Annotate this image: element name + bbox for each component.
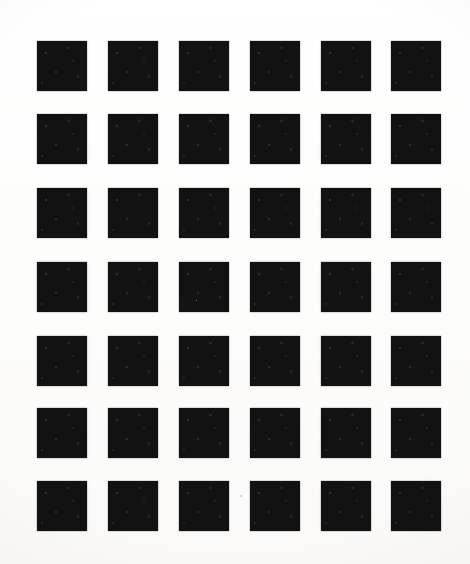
grid-square-r4-c6 [391, 262, 441, 312]
grid-square-r7-c5 [321, 481, 371, 531]
grid-square-r4-c1 [37, 262, 87, 312]
grid-square-r2-c2 [108, 114, 158, 164]
grid-square-r6-c5 [321, 408, 371, 458]
grid-square-r2-c4 [250, 114, 300, 164]
scan-speck-1 [240, 495, 242, 497]
grid-square-r1-c6 [391, 41, 441, 91]
grid-square-r5-c4 [250, 336, 300, 386]
grid-square-r2-c1 [37, 114, 87, 164]
grid-square-r7-c2 [108, 481, 158, 531]
grid-square-r3-c1 [37, 188, 87, 238]
grid-square-r6-c3 [179, 408, 229, 458]
grid-square-r4-c3 [179, 262, 229, 312]
grid-square-r5-c3 [179, 336, 229, 386]
grid-square-r4-c2 [108, 262, 158, 312]
grid-square-r3-c3 [179, 188, 229, 238]
grid-square-r7-c6 [391, 481, 441, 531]
grid-square-r1-c2 [108, 41, 158, 91]
grid-square-r5-c2 [108, 336, 158, 386]
grid-square-r3-c2 [108, 188, 158, 238]
grid-square-r6-c1 [37, 408, 87, 458]
grid-square-r3-c5 [321, 188, 371, 238]
grid-square-r7-c1 [37, 481, 87, 531]
grid-square-r2-c5 [321, 114, 371, 164]
grid-square-r1-c5 [321, 41, 371, 91]
grid-square-r2-c6 [391, 114, 441, 164]
grid-square-r5-c5 [321, 336, 371, 386]
page-canvas [0, 0, 470, 564]
grid-square-r7-c4 [250, 481, 300, 531]
grid-square-r7-c3 [179, 481, 229, 531]
grid-square-r1-c4 [250, 41, 300, 91]
grid-square-r6-c6 [391, 408, 441, 458]
grid-square-r4-c4 [250, 262, 300, 312]
grid-square-r5-c1 [37, 336, 87, 386]
scan-speck-2 [196, 300, 197, 301]
grid-square-r1-c3 [179, 41, 229, 91]
grid-square-r1-c1 [37, 41, 87, 91]
grid-square-r5-c6 [391, 336, 441, 386]
grid-square-r6-c4 [250, 408, 300, 458]
grid-square-r3-c6 [391, 188, 441, 238]
square-grid [0, 0, 470, 564]
grid-square-r6-c2 [108, 408, 158, 458]
grid-square-r4-c5 [321, 262, 371, 312]
grid-square-r2-c3 [179, 114, 229, 164]
grid-square-r3-c4 [250, 188, 300, 238]
